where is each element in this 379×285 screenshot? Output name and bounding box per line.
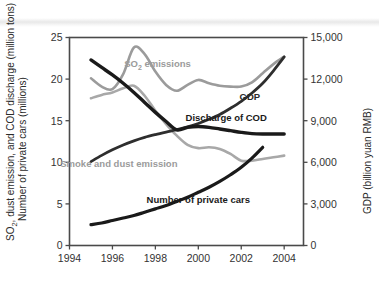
left-axis-tick-labels: 0510152025 [51,31,63,251]
right-tick-label: 12,000 [311,73,343,85]
x-tick-label: 2004 [272,252,296,264]
so2-emissions-label: SO2 emissions [124,58,191,70]
left-tick-label: 5 [57,198,63,210]
x-tick-label: 2002 [230,252,254,264]
x-axis-tick-labels: 199419961998200020022004 [58,252,296,264]
smoke-and-dust-emission-label: Smoke and dust emission [60,158,177,169]
left-axis-title: SO2, dust emission, and COD discharge (m… [5,3,28,241]
chart-figure: 0510152025 03,0006,0009,00012,00015,000 … [0,0,379,285]
right-tick-label: 6,000 [311,156,337,168]
left-tick-label: 25 [51,31,63,43]
x-tick-label: 2000 [187,252,211,264]
svg-text:Number of private cars (millio: Number of private cars (millions) [17,77,28,221]
number-of-private-cars-label: Number of private cars [147,194,250,205]
x-tick-label: 1998 [144,252,168,264]
left-tick-label: 20 [51,73,63,85]
gdp-label: GDP [240,91,261,102]
right-axis-title: GDP (billion yuan RMB) [362,108,373,214]
right-tick-label: 0 [311,239,317,251]
right-axis-tick-labels: 03,0006,0009,00012,00015,000 [311,31,343,251]
right-tick-label: 3,000 [311,198,337,210]
discharge-of-cod-label: Discharge of COD [186,112,267,123]
left-tick-label: 15 [51,115,63,127]
right-tick-label: 9,000 [311,115,337,127]
x-tick-label: 1996 [101,252,125,264]
right-tick-label: 15,000 [311,31,343,43]
left-tick-label: 0 [57,239,63,251]
x-tick-label: 1994 [58,252,82,264]
line-chart: 0510152025 03,0006,0009,00012,00015,000 … [0,0,379,285]
